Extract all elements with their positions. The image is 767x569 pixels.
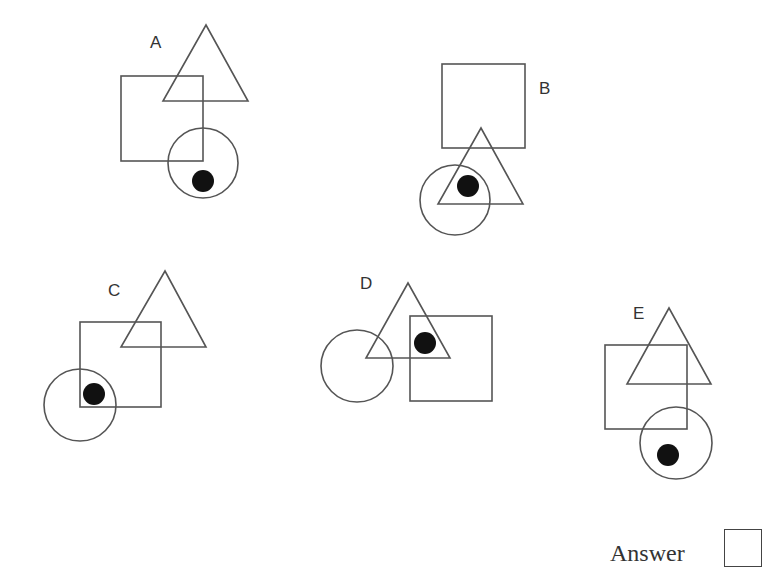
square-shape [605, 345, 687, 429]
circle-shape [321, 330, 393, 402]
option-label-e: E [633, 305, 644, 322]
option-figure-a[interactable] [121, 25, 248, 198]
option-label-b: B [539, 80, 550, 97]
option-figure-b[interactable] [420, 64, 525, 235]
triangle-shape [163, 25, 248, 101]
option-figure-c[interactable] [44, 271, 206, 441]
dot-shape [657, 444, 679, 466]
dot-shape [457, 175, 479, 197]
answer-box[interactable] [724, 529, 762, 567]
option-label-d: D [360, 275, 372, 292]
circle-shape [640, 407, 712, 479]
square-shape [442, 64, 525, 148]
dot-shape [414, 332, 436, 354]
triangle-shape [121, 271, 206, 347]
square-shape [121, 76, 203, 161]
option-label-a: A [150, 34, 161, 51]
dot-shape [192, 170, 214, 192]
option-label-c: C [108, 282, 120, 299]
dot-shape [83, 383, 105, 405]
option-figure-d[interactable] [321, 283, 492, 402]
triangle-shape [366, 283, 450, 358]
answer-label: Answer [610, 541, 685, 565]
option-figure-e[interactable] [605, 308, 712, 479]
